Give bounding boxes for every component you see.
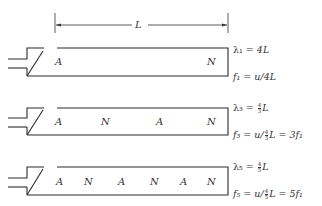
frequency-suffix: L = 3f₁ [269,129,303,140]
node-label-antinode: A [56,177,63,187]
fraction: 43 [265,130,269,141]
fraction: 45 [258,162,262,173]
node-label-antinode: A [156,117,163,127]
frequency-symbol: f₃ [233,129,240,140]
denominator: 3 [265,136,269,141]
wavelength-symbol: λ₃ [233,102,243,113]
node-label-antinode: A [180,177,187,187]
pipe-diagram [0,0,322,206]
node-label-node: N [207,117,216,127]
wavelength-symbol: λ₅ [233,161,243,172]
fraction: 45 [265,189,269,200]
denominator: 5 [265,195,269,200]
node-label-node: N [101,117,110,127]
denominator: 5 [258,168,262,173]
pipe-fundamental [8,48,228,76]
node-label-node: N [207,177,216,187]
frequency-equation-1: f₁ = u/4L [233,72,276,82]
denominator: 3 [258,109,262,114]
node-label-antinode: A [55,117,62,127]
node-label-node: N [84,177,93,187]
wavelength-unit: L [262,102,268,113]
frequency-prefix: u/ [254,129,263,140]
wavelength-symbol: λ₁ [233,44,243,55]
length-label: L [135,20,142,30]
frequency-value: u/4L [254,71,276,82]
frequency-equation-3: f₃ = u/43L = 3f₁ [233,130,303,141]
wavelength-equation-1: λ₁ = 4L [233,45,269,55]
frequency-equation-5: f₅ = u/45L = 5f₁ [233,189,303,200]
pipe-third-harmonic [8,108,228,135]
node-label-antinode: A [55,57,62,67]
fraction: 43 [258,103,262,114]
frequency-symbol: f₅ [233,188,240,199]
wavelength-equation-5: λ₅ = 45L [233,162,269,173]
frequency-prefix: u/ [254,188,263,199]
frequency-symbol: f₁ [233,71,240,82]
wavelength-equation-3: λ₃ = 43L [233,103,269,114]
node-label-antinode: A [118,177,125,187]
frequency-suffix: L = 5f₁ [269,188,303,199]
wavelength-value: 4L [257,44,269,55]
wavelength-unit: L [262,161,268,172]
node-label-node: N [150,177,159,187]
node-label-node: N [207,57,216,67]
